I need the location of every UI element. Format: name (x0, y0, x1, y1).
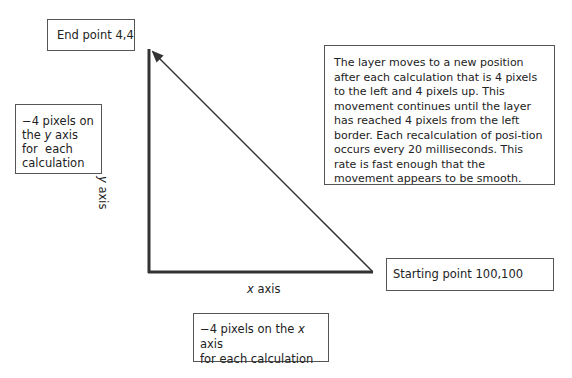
x-axis-label: x axis (247, 282, 281, 296)
end-point-label: End point 4,4 (57, 28, 134, 42)
description-text: The layer moves to a new position after … (334, 56, 542, 185)
start-point-label: Starting point 100,100 (393, 267, 523, 281)
description-box: The layer moves to a new position after … (324, 45, 555, 185)
y-axis-label: y axis (96, 176, 110, 210)
x-axis-note-box: −4 pixels on the x axis for each calcula… (193, 313, 329, 362)
y-axis-note-box: −4 pixels on the y axis for each calcula… (15, 104, 102, 174)
y-note-line2: the y axis (22, 128, 101, 142)
y-note-line3: for each (22, 142, 101, 156)
x-note-line1: −4 pixels on the x axis (200, 322, 328, 352)
x-note-line2: for each calculation (200, 352, 328, 367)
y-note-line1: −4 pixels on (22, 114, 101, 128)
end-point-box: End point 4,4 (47, 19, 135, 51)
y-note-line4: calculation (22, 156, 101, 170)
start-point-box: Starting point 100,100 (386, 258, 554, 291)
